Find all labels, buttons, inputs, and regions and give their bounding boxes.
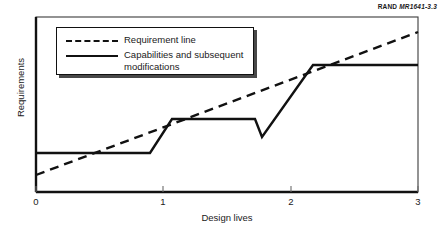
x-tick-label-3: 3 (408, 196, 428, 207)
solid-line-icon (66, 50, 118, 62)
chart-figure: RAND MR1641-3.3 Requirements Design live… (0, 0, 445, 237)
dashed-line-icon (66, 35, 118, 47)
legend-item-requirement: Requirement line (66, 34, 196, 47)
legend-item-capabilities: Capabilities and subsequent modification… (66, 49, 252, 72)
x-axis-title: Design lives (36, 212, 418, 223)
chart-legend: Requirement line Capabilities and subseq… (56, 27, 254, 75)
x-tick-label-2: 2 (281, 196, 301, 207)
legend-label-requirement: Requirement line (124, 34, 196, 46)
x-tick-label-0: 0 (26, 196, 46, 207)
y-axis-title: Requirements (15, 38, 26, 138)
legend-label-capabilities: Capabilities and subsequent modification… (124, 49, 252, 72)
x-tick-label-1: 1 (153, 196, 173, 207)
